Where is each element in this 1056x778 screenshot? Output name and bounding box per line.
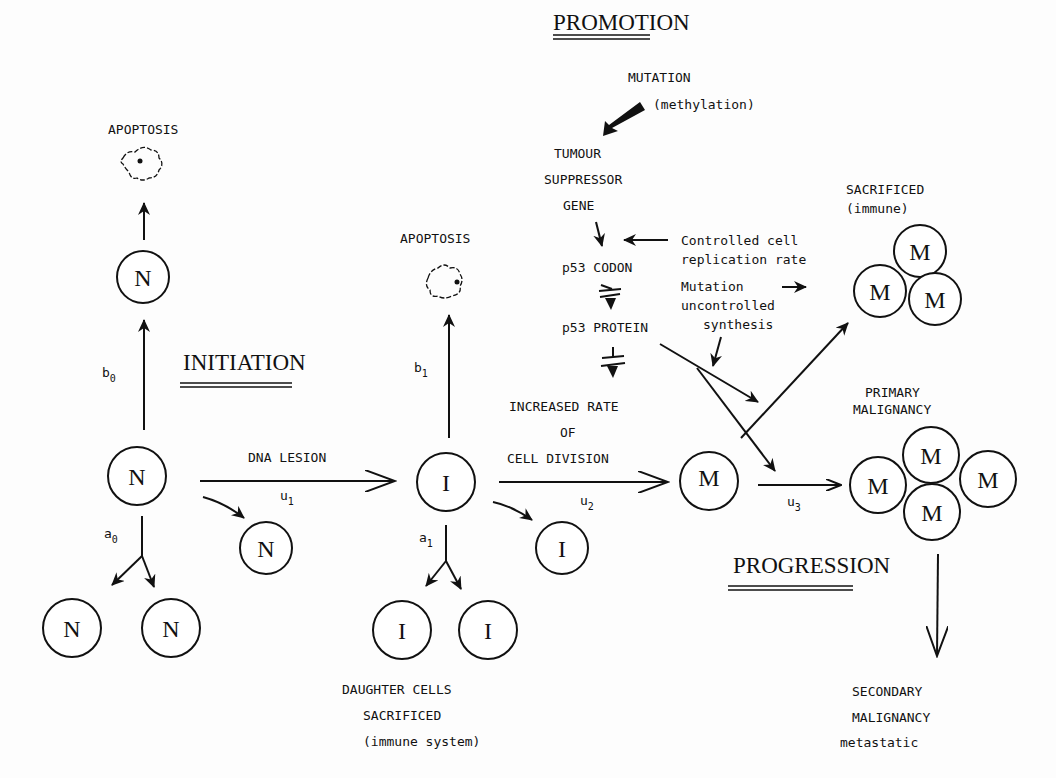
svg-text:SACRIFICED: SACRIFICED	[846, 182, 924, 197]
svg-text:SUPPRESSOR: SUPPRESSOR	[544, 172, 622, 187]
svg-text:metastatic: metastatic	[840, 735, 918, 750]
svg-text:uncontrolled: uncontrolled	[681, 298, 775, 313]
mutation-label: MUTATION	[628, 70, 691, 85]
cell-m-primary-bottom: M	[904, 484, 960, 540]
svg-text:MALIGNANCY: MALIGNANCY	[852, 710, 930, 725]
svg-text:(immune system): (immune system)	[363, 734, 480, 749]
mutation-uncontrolled-label: Mutation uncontrolled synthesis	[681, 279, 775, 332]
apoptotic-nucleus-icon-mid	[455, 280, 460, 285]
arrow-to-i-small	[493, 502, 532, 520]
cell-i-daughter-left: I	[373, 601, 431, 659]
svg-text:N: N	[257, 536, 274, 562]
rate-b0: b0	[102, 365, 116, 384]
svg-text:I: I	[398, 618, 406, 644]
rate-a1: a1	[419, 530, 433, 549]
svg-text:PROGRESSION: PROGRESSION	[733, 553, 891, 578]
cell-n-small: N	[240, 522, 292, 574]
svg-text:M: M	[924, 287, 945, 313]
arrow-a0-left	[112, 556, 142, 585]
svg-text:N: N	[134, 265, 151, 291]
cell-n-main: N	[108, 447, 166, 505]
svg-text:M: M	[867, 473, 888, 499]
svg-text:M: M	[921, 500, 942, 526]
secondary-malignancy-label: SECONDARY MALIGNANCY metastatic	[840, 684, 930, 750]
svg-text:M: M	[920, 443, 941, 469]
svg-text:I: I	[442, 470, 450, 496]
svg-text:replication rate: replication rate	[681, 252, 806, 267]
p53-protein-label: p53 PROTEIN	[562, 320, 648, 335]
rate-u3: u3	[787, 494, 801, 513]
blocked-arrow-codon-protein	[599, 285, 621, 310]
cell-m-primary-left: M	[850, 457, 906, 513]
svg-text:N: N	[128, 464, 145, 490]
cell-m-single: M	[680, 452, 738, 510]
svg-text:(immune): (immune)	[846, 201, 909, 216]
arrow-gene-to-codon	[596, 222, 602, 246]
blocked-arrow-protein-rate	[601, 347, 625, 378]
svg-text:INITIATION: INITIATION	[183, 350, 306, 375]
arrow-to-sacrificed	[741, 323, 848, 438]
arrow-synthesis-down	[713, 337, 721, 366]
stage-initiation-heading: INITIATION	[180, 350, 306, 387]
svg-text:TUMOUR: TUMOUR	[554, 146, 601, 161]
rate-u1: u1	[280, 488, 294, 507]
cell-n-daughter-left: N	[43, 599, 101, 657]
apoptosis-label-mid: APOPTOSIS	[400, 231, 470, 246]
arrow-a0-right	[142, 556, 154, 587]
svg-text:DAUGHTER CELLS: DAUGHTER CELLS	[342, 682, 452, 697]
methylation-label: (methylation)	[653, 97, 755, 112]
svg-text:OF: OF	[560, 425, 576, 440]
arrow-protein-to-progression	[660, 344, 758, 402]
svg-text:M: M	[698, 465, 719, 491]
arrow-a1-left	[426, 561, 446, 586]
svg-text:SECONDARY: SECONDARY	[852, 684, 923, 699]
mutation-arrow-icon	[603, 102, 645, 136]
svg-text:MALIGNANCY: MALIGNANCY	[853, 402, 931, 417]
svg-text:N: N	[162, 616, 179, 642]
svg-text:M: M	[909, 239, 930, 265]
cell-n-daughter-right: N	[142, 599, 200, 657]
arrow-a1-right	[446, 561, 461, 589]
apoptotic-body-icon-left	[121, 147, 162, 180]
cell-n-top: N	[117, 251, 169, 303]
stage-promotion-heading: PROMOTION	[553, 10, 690, 39]
tumour-suppressor-gene-label: TUMOUR SUPPRESSOR GENE	[544, 146, 622, 213]
apoptotic-nucleus-icon	[138, 159, 143, 164]
cell-i-small: I	[536, 522, 588, 574]
svg-text:M: M	[869, 279, 890, 305]
svg-text:Mutation: Mutation	[681, 279, 744, 294]
svg-text:PRIMARY: PRIMARY	[865, 385, 920, 400]
cell-m-sacrificed-top: M	[894, 225, 946, 277]
svg-text:Controlled cell: Controlled cell	[681, 233, 798, 248]
increased-rate-label: INCREASED RATE OF CELL DIVISION	[507, 399, 619, 466]
svg-text:SACRIFICED: SACRIFICED	[363, 708, 441, 723]
arrow-to-n-small	[203, 497, 244, 518]
cell-m-sacrificed-left: M	[854, 265, 906, 317]
svg-text:M: M	[977, 467, 998, 493]
cell-m-primary-right: M	[960, 451, 1016, 507]
svg-text:synthesis: synthesis	[703, 317, 773, 332]
svg-text:GENE: GENE	[563, 198, 594, 213]
stage-progression-heading: PROGRESSION	[728, 553, 891, 590]
daughter-cells-label: DAUGHTER CELLS SACRIFICED (immune system…	[342, 682, 480, 749]
svg-text:PROMOTION: PROMOTION	[553, 10, 690, 35]
cell-i-daughter-right: I	[459, 601, 517, 659]
svg-text:INCREASED RATE: INCREASED RATE	[509, 399, 619, 414]
apoptosis-label-left: APOPTOSIS	[108, 122, 178, 137]
svg-text:I: I	[558, 536, 566, 562]
sacrificed-immune-label: SACRIFICED (immune)	[846, 182, 924, 216]
carcinogenesis-diagram: PROMOTION INITIATION PROGRESSION APOPTOS…	[0, 0, 1056, 778]
rate-b1: b1	[414, 360, 428, 379]
cell-m-primary-top: M	[903, 427, 959, 483]
rate-a0: a0	[104, 526, 118, 545]
cell-i-main: I	[417, 453, 475, 511]
rate-u2: u2	[580, 493, 594, 512]
controlled-rate-label: Controlled cell replication rate	[681, 233, 806, 267]
cell-m-sacrificed-right: M	[909, 273, 961, 325]
svg-text:I: I	[484, 618, 492, 644]
svg-text:N: N	[63, 616, 80, 642]
p53-codon-label: p53 CODON	[562, 260, 632, 275]
dna-lesion-label: DNA LESION	[248, 450, 326, 465]
primary-malignancy-label: PRIMARY MALIGNANCY	[853, 385, 931, 417]
svg-text:CELL DIVISION: CELL DIVISION	[507, 451, 609, 466]
